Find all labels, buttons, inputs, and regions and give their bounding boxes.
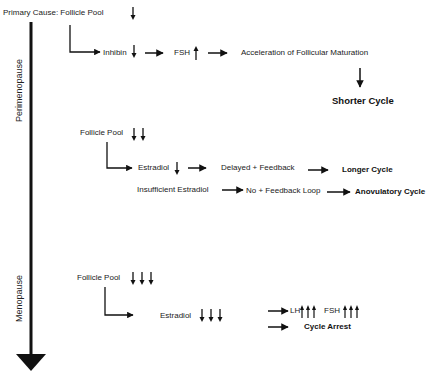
down-arrow-icon xyxy=(131,7,136,20)
anovulatory-cycle-label: Anovulatory Cycle xyxy=(355,187,425,197)
lh-label: LH xyxy=(290,306,300,316)
longer-cycle-label: Longer Cycle xyxy=(342,165,393,175)
acceleration-label: Acceleration of Follicular Maturation xyxy=(241,48,368,58)
menopause-fsh-label: FSH xyxy=(324,306,340,316)
triple-up-arrow-icon xyxy=(300,305,316,318)
fsh-label: FSH xyxy=(174,48,190,58)
estradiol-label: Estradiol xyxy=(138,163,169,173)
connector-primary-to-inhibin xyxy=(70,25,100,52)
shorter-cycle-label: Shorter Cycle xyxy=(332,96,394,106)
down-arrow-icon xyxy=(175,162,180,175)
inhibin-label: Inhibin xyxy=(103,48,127,58)
stage-label-perimenopause: Perimenopause xyxy=(14,59,24,122)
cycle-arrest-label: Cycle Arrest xyxy=(304,322,351,332)
no-feedback-loop-label: No + Feedback Loop xyxy=(246,186,321,196)
insufficient-estradiol-label: Insufficient Estradiol xyxy=(137,185,208,195)
stage-label-menopause: Menopause xyxy=(14,275,24,322)
connector-follicle-to-estradiol xyxy=(107,142,132,168)
up-arrow-icon xyxy=(194,46,199,60)
menopause-estradiol-label: Estradiol xyxy=(160,311,191,321)
triple-up-arrow-icon xyxy=(343,305,359,318)
delayed-feedback-label: Delayed + Feedback xyxy=(221,163,295,173)
double-down-arrow-icon xyxy=(132,128,146,141)
follicle-pool-label: Follicle Pool xyxy=(80,128,123,138)
menopause-follicle-pool-label: Follicle Pool xyxy=(77,273,120,283)
triple-down-arrow-icon xyxy=(200,309,223,322)
connector-follicle-to-estradiol-menopause xyxy=(105,287,133,315)
down-arrow-icon xyxy=(132,45,137,58)
triple-down-arrow-icon xyxy=(131,272,154,285)
primary-cause-label: Primary Cause: Follicle Pool xyxy=(3,8,103,18)
